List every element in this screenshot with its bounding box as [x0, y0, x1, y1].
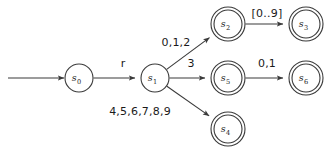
state-subscript-s3: 3 — [304, 24, 308, 32]
state-node-s0[interactable]: s0 — [65, 64, 93, 92]
transition-label-s1-s5: 3 — [187, 57, 194, 70]
state-subscript-s5: 5 — [226, 78, 230, 86]
state-node-s6[interactable]: s6 — [289, 61, 323, 95]
transition-label-s1-s4: 4,5,6,7,8,9 — [109, 105, 171, 118]
fsm-canvas: s0s1s2s3s5s6s4 r0,1,2[0..9]30,14,5,6,7,8… — [0, 0, 334, 151]
fsm-diagram: s0s1s2s3s5s6s4 r0,1,2[0..9]30,14,5,6,7,8… — [0, 0, 334, 151]
transition-label-s5-s6: 0,1 — [258, 57, 276, 70]
state-subscript-s0: 0 — [77, 78, 81, 86]
transition-s1-s4 — [167, 86, 209, 116]
state-node-s5[interactable]: s5 — [211, 61, 245, 95]
state-node-s2[interactable]: s2 — [211, 7, 245, 41]
state-subscript-s6: 6 — [304, 78, 308, 86]
state-subscript-s1: 1 — [153, 78, 157, 86]
state-subscript-s4: 4 — [226, 129, 230, 137]
state-subscript-s2: 2 — [226, 24, 230, 32]
nodes-group: s0s1s2s3s5s6s4 — [65, 7, 323, 146]
state-node-s3[interactable]: s3 — [289, 7, 323, 41]
transition-label-s2-s3: [0..9] — [252, 7, 283, 20]
transition-label-s0-s1: r — [121, 57, 126, 70]
transition-label-s1-s2: 0,1,2 — [162, 36, 191, 49]
state-node-s4[interactable]: s4 — [211, 112, 245, 146]
state-node-s1[interactable]: s1 — [141, 64, 169, 92]
